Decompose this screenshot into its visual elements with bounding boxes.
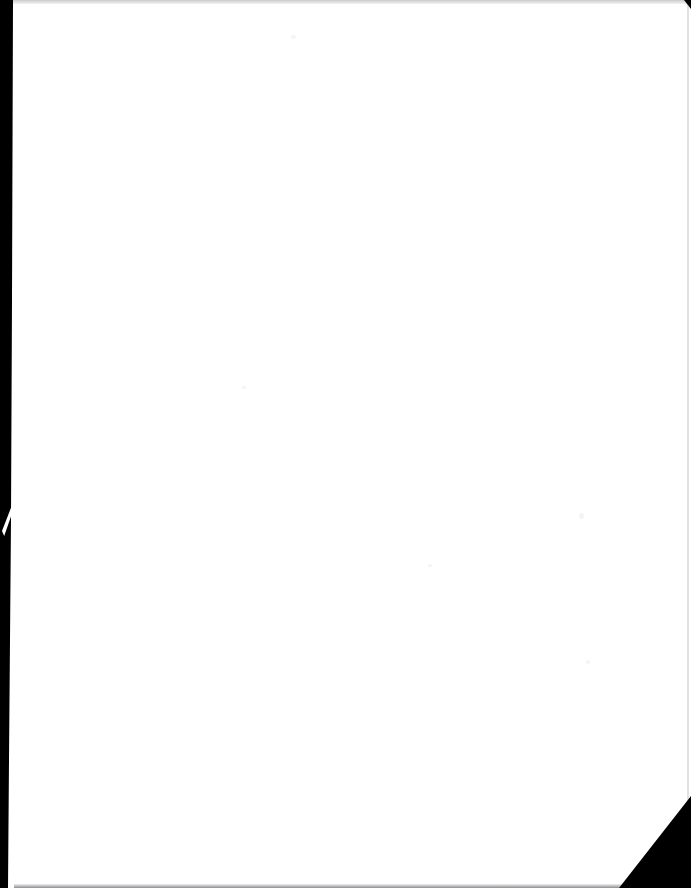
bottom-scan-edge [14, 884, 654, 888]
scanned-page [0, 0, 691, 888]
top-scan-edge [10, 0, 691, 4]
dust-speck-icon [291, 35, 296, 39]
dust-speck-icon [428, 564, 432, 567]
right-scan-edge [687, 4, 689, 804]
page-content-area [40, 40, 640, 830]
dust-speck-icon [242, 386, 246, 389]
dust-speck-icon [579, 513, 584, 519]
dust-speck-icon [586, 660, 590, 664]
